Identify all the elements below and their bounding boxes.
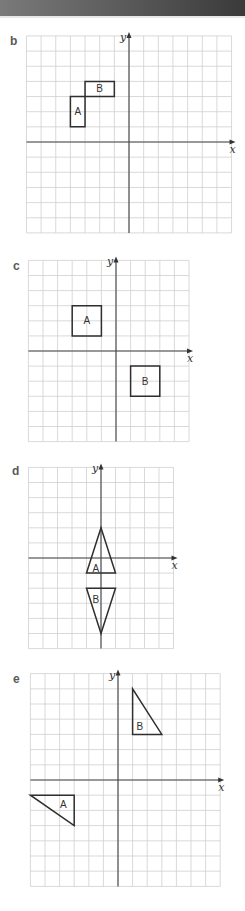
y-axis-label: y — [108, 669, 116, 682]
x-axis-label: x — [218, 781, 225, 794]
y-axis-arrow-icon — [116, 670, 121, 676]
shape-label: A — [60, 799, 67, 810]
shape-label: B — [137, 721, 144, 732]
coordinate-grid-e: xyAB — [0, 0, 245, 911]
